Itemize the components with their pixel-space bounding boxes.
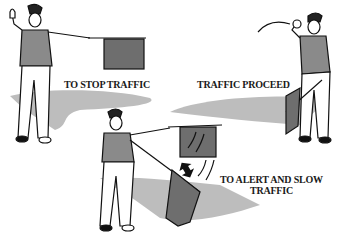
caption-traffic-proceed: TRAFFIC PROCEED [197, 79, 290, 90]
caption-stop-traffic: TO STOP TRAFFIC [64, 79, 150, 90]
flagger-stop [10, 4, 146, 143]
illustration [0, 0, 347, 244]
caption-alert-slow: TO ALERT AND SLOW TRAFFIC [220, 174, 323, 196]
caption-alert-line1: TO ALERT AND SLOW [220, 174, 323, 185]
flagger-signals-diagram: TO STOP TRAFFIC TRAFFIC PROCEED TO ALERT… [0, 0, 347, 244]
caption-alert-line2: TRAFFIC [220, 185, 323, 196]
flagger-proceed [258, 13, 331, 143]
